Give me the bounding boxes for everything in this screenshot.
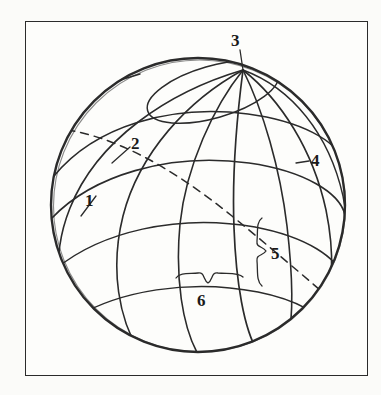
- leader-line-4: [296, 161, 309, 163]
- callout-label-4: 4: [311, 152, 320, 169]
- leader-line-3: [240, 50, 243, 70]
- figure-page: 1 2 3 4 5 6: [0, 0, 381, 395]
- callout-label-3: 3: [231, 32, 240, 49]
- meridian-6: [243, 70, 332, 318]
- parallel-lower: [57, 222, 343, 278]
- parallel-equator: [52, 160, 345, 218]
- callout-label-1: 1: [85, 192, 94, 209]
- globe-diagram: [0, 0, 381, 395]
- callout-label-2: 2: [131, 135, 140, 152]
- callout-label-5: 5: [271, 245, 280, 262]
- great-circle-visible-arc: [53, 74, 140, 128]
- brace-6-horizontal: [176, 273, 243, 283]
- leader-line-2: [112, 147, 130, 163]
- callout-label-6: 6: [197, 292, 206, 309]
